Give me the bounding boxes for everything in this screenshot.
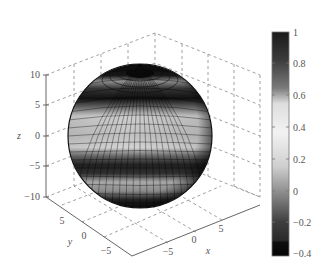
y-tick-0: 0 (82, 230, 87, 241)
y-axis-label: y (67, 236, 73, 247)
z-tick-5: 5 (35, 99, 40, 110)
colorbar-label-neg0.4: −0.4 (293, 248, 311, 259)
z-tick-10: 10 (30, 69, 40, 80)
front-grid (234, 75, 260, 197)
z-axis-tick-labels: 10 5 0 −5 −10 (24, 69, 40, 202)
colorbar-label-0.6: 0.6 (293, 90, 306, 101)
y-tick-5: 5 (60, 215, 65, 226)
colorbar-label-0.2: 0.2 (293, 154, 306, 165)
x-tick-0: 0 (192, 234, 197, 245)
z-axis-label: z (16, 130, 21, 141)
x-tick-neg5: −5 (163, 246, 174, 257)
colorbar-label-0.8: 0.8 (293, 58, 306, 69)
figure: 10 5 0 −5 −10 z 5 0 −5 y −5 0 5 x 1 0.8 … (0, 0, 331, 269)
colorbar: 1 0.8 0.6 0.4 0.2 0 −0.2 −0.4 (272, 27, 311, 259)
colorbar-label-0: 0 (293, 186, 298, 197)
colorbar-label-1: 1 (293, 27, 298, 38)
y-tick-neg5: −5 (101, 245, 112, 256)
x-tick-5: 5 (219, 223, 224, 234)
x-axis-label: x (205, 245, 211, 256)
z-tick-0: 0 (35, 130, 40, 141)
z-tick-neg10: −10 (24, 191, 40, 202)
sphere-surface (68, 64, 212, 208)
z-tick-neg5: −5 (29, 160, 40, 171)
colorbar-label-0.4: 0.4 (293, 122, 306, 133)
colorbar-label-neg0.2: −0.2 (293, 217, 311, 228)
